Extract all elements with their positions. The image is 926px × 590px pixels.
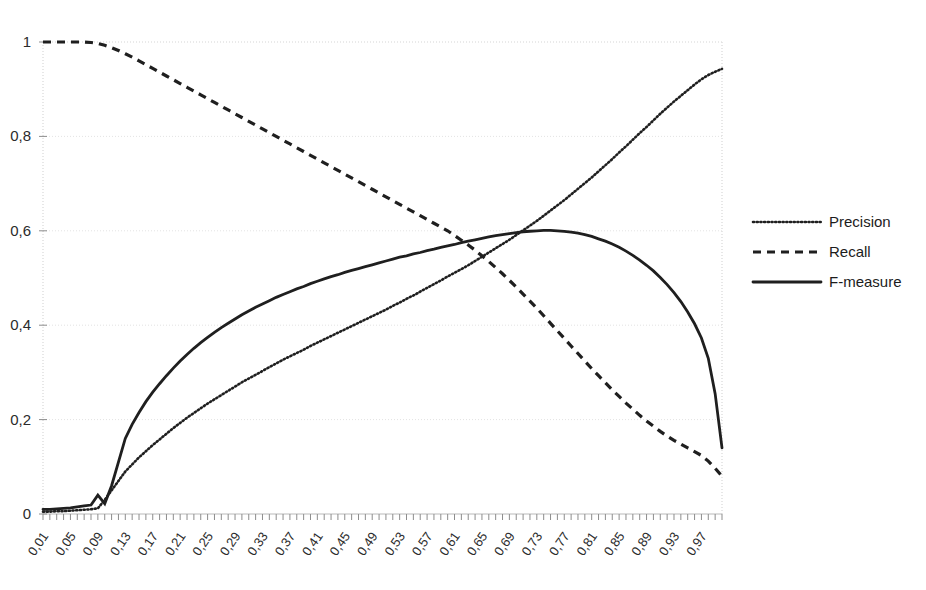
x-axis-tick-label: 0,77 (546, 529, 573, 558)
x-axis-tick-label: 0,61 (436, 529, 463, 558)
x-axis-tick-label: 0,49 (354, 529, 381, 558)
x-axis-tick-label: 0,85 (601, 529, 628, 558)
plot-canvas: 0,010,050,090,130,170,210,250,290,330,37… (0, 0, 926, 590)
x-axis-tick-label: 0,89 (628, 529, 655, 558)
x-axis-tick-label: 0,81 (573, 529, 600, 558)
y-axis-tick-label: 0 (23, 505, 31, 522)
legend-label-f-measure: F-measure (829, 273, 902, 290)
y-axis-tick-label: 0,6 (10, 222, 31, 239)
y-axis-ticks-group (39, 42, 47, 514)
y-axis-tick-label: 0,4 (10, 316, 31, 333)
x-axis-tick-label: 0,93 (656, 529, 683, 558)
x-axis-tick-label: 0,69 (491, 529, 518, 558)
legend-label-recall: Recall (829, 243, 871, 260)
y-axis-tick-label: 0,8 (10, 127, 31, 144)
series-line-recall (43, 42, 722, 476)
precision-recall-fmeasure-chart: 0,010,050,090,130,170,210,250,290,330,37… (0, 0, 926, 590)
x-axis-tick-label: 0,97 (683, 529, 710, 558)
x-axis-tick-label: 0,73 (518, 529, 545, 558)
x-axis-ticks-group (43, 514, 722, 520)
x-axis-tick-label: 0,45 (326, 529, 353, 558)
x-axis-tick-label: 0,09 (80, 529, 107, 558)
x-axis-tick-label: 0,29 (217, 529, 244, 558)
y-axis-labels-group: 10,80,60,40,20 (10, 33, 31, 522)
series-line-precision (43, 69, 722, 512)
series-group (43, 42, 722, 512)
x-axis-tick-label: 0,41 (299, 529, 326, 558)
series-line-f-measure (43, 230, 722, 509)
x-axis-tick-label: 0,13 (107, 529, 134, 558)
legend: PrecisionRecallF-measure (753, 213, 902, 290)
gridlines-group (43, 42, 722, 514)
x-axis-tick-label: 0,33 (244, 529, 271, 558)
y-axis-tick-label: 0,2 (10, 411, 31, 428)
x-axis-tick-label: 0,25 (189, 529, 216, 558)
x-axis-tick-label: 0,17 (134, 529, 161, 558)
y-axis-tick-label: 1 (23, 33, 31, 50)
legend-label-precision: Precision (829, 213, 891, 230)
x-axis-tick-label: 0,65 (464, 529, 491, 558)
x-axis-labels-group: 0,010,050,090,130,170,210,250,290,330,37… (25, 529, 710, 558)
x-axis-tick-label: 0,57 (409, 529, 436, 558)
x-axis-tick-label: 0,01 (25, 529, 52, 558)
x-axis-tick-label: 0,21 (162, 529, 189, 558)
x-axis-tick-label: 0,53 (381, 529, 408, 558)
x-axis-tick-label: 0,37 (272, 529, 299, 558)
x-axis-tick-label: 0,05 (52, 529, 79, 558)
